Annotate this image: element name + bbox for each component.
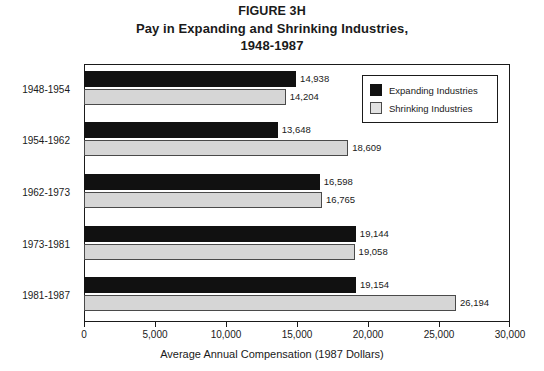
bar-value-label: 13,648	[278, 122, 311, 138]
bar-group: 19,14419,058	[84, 223, 510, 267]
x-axis-tick-label: 15,000	[282, 329, 313, 340]
category-label: 1981-1987	[22, 274, 70, 318]
figure-label: FIGURE 3H	[0, 3, 544, 20]
x-axis-tick	[368, 322, 369, 327]
x-axis-tick	[439, 322, 440, 327]
bar-expanding[interactable]	[84, 71, 296, 87]
legend-item[interactable]: Shrinking Industries	[370, 99, 497, 117]
bar-value-label: 14,938	[296, 71, 329, 87]
bar-shrinking[interactable]	[84, 140, 348, 156]
category-label: 1954-1962	[22, 119, 70, 163]
chart-legend: Expanding IndustriesShrinking Industries	[362, 75, 498, 123]
bar-expanding[interactable]	[84, 226, 356, 242]
x-axis-tick	[297, 322, 298, 327]
bar-value-label: 18,609	[348, 140, 381, 156]
category-label: 1973-1981	[22, 223, 70, 267]
x-axis-tick	[226, 322, 227, 327]
x-axis-tick-label: 10,000	[211, 329, 242, 340]
bar-value-label: 14,204	[286, 89, 319, 105]
bar-shrinking[interactable]	[84, 244, 355, 260]
bar-value-label: 16,598	[320, 174, 353, 190]
bar-expanding[interactable]	[84, 277, 356, 293]
category-label: 1962-1973	[22, 171, 70, 215]
x-axis-tick-label: 5,000	[142, 329, 167, 340]
bar-value-label: 26,194	[456, 295, 489, 311]
bar-value-label: 19,144	[356, 226, 389, 242]
x-axis-tick-label: 25,000	[424, 329, 455, 340]
legend-label: Shrinking Industries	[389, 103, 472, 114]
category-label: 1948-1954	[22, 68, 70, 112]
x-axis-tick-label: 30,000	[495, 329, 526, 340]
bar-group: 13,64818,609	[84, 119, 510, 163]
bar-value-label: 19,058	[355, 244, 388, 260]
legend-swatch-expanding	[370, 84, 382, 96]
x-axis-title: Average Annual Compensation (1987 Dollar…	[0, 348, 544, 360]
x-axis-tick	[155, 322, 156, 327]
bar-group: 19,15426,194	[84, 274, 510, 318]
bar-shrinking[interactable]	[84, 295, 456, 311]
bar-expanding[interactable]	[84, 122, 278, 138]
x-axis-tick	[509, 322, 510, 327]
bar-value-label: 19,154	[356, 277, 389, 293]
legend-label: Expanding Industries	[389, 85, 478, 96]
x-axis-tick	[84, 322, 85, 327]
legend-swatch-shrinking	[370, 102, 382, 114]
bar-group: 16,59816,765	[84, 171, 510, 215]
x-axis-tick-label: 0	[81, 329, 87, 340]
bar-shrinking[interactable]	[84, 192, 322, 208]
chart-title-block: FIGURE 3H Pay in Expanding and Shrinking…	[0, 3, 544, 54]
bar-value-label: 16,765	[322, 192, 355, 208]
bar-expanding[interactable]	[84, 174, 320, 190]
chart-title-line-2: 1948-1987	[0, 37, 544, 54]
category-axis-labels: 1948-19541954-19621962-19731973-19811981…	[0, 64, 78, 322]
x-axis-tick-label: 20,000	[353, 329, 384, 340]
chart-title-line-1: Pay in Expanding and Shrinking Industrie…	[0, 20, 544, 37]
bar-shrinking[interactable]	[84, 89, 286, 105]
legend-item[interactable]: Expanding Industries	[370, 81, 497, 99]
